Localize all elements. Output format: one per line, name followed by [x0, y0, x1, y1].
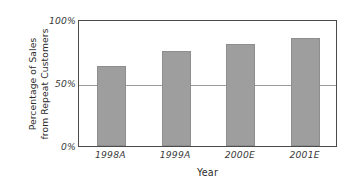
bar-2000E: [226, 44, 255, 146]
x-tick-label-2001E: 2001E: [272, 149, 337, 160]
x-axis-tick-labels: 1998A 1999A 2000E 2001E: [78, 149, 337, 165]
y-axis-title-line-1: Percentage of Sales: [27, 28, 39, 139]
x-tick-label-2000E: 2000E: [208, 149, 273, 160]
bar-chart-figure: Percentage of Sales from Repeat Customer…: [0, 0, 354, 188]
bar-1999A: [162, 51, 191, 146]
y-tick-label-0: 0%: [46, 141, 76, 152]
bar-1998A: [97, 66, 126, 146]
y-axis-tick-labels: 100% 50% 0%: [44, 0, 76, 188]
bar-2001E: [291, 38, 320, 146]
x-tick-label-1999A: 1999A: [143, 149, 208, 160]
plot-inner: [79, 21, 336, 146]
plot-area: [78, 20, 337, 147]
x-tick-label-1998A: 1998A: [78, 149, 143, 160]
y-tick-label-100: 100%: [46, 15, 76, 26]
y-tick-label-50: 50%: [46, 78, 76, 89]
x-axis-title: Year: [78, 167, 337, 178]
